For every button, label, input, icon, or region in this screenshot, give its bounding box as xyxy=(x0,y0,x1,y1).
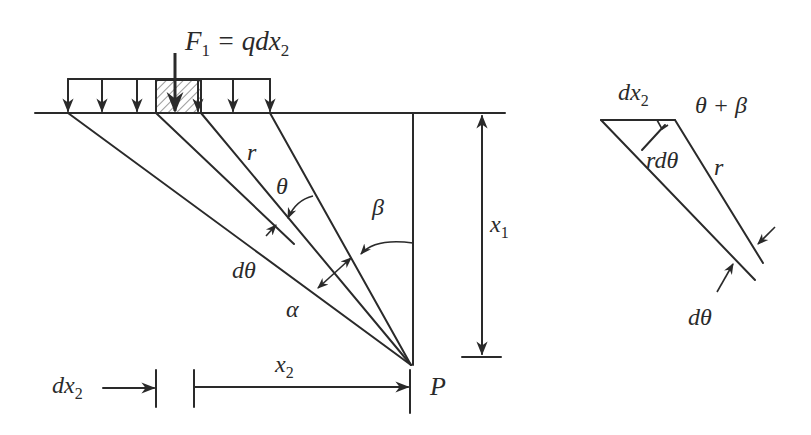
rays-to-point-p xyxy=(68,113,413,365)
detail-dtheta-arrow-upper xyxy=(758,227,775,244)
detail-triangle xyxy=(601,120,775,292)
point-p-label: P xyxy=(429,372,446,401)
r-label: r xyxy=(247,139,257,165)
alpha-label: α xyxy=(286,296,299,322)
theta-arc xyxy=(288,196,313,218)
detail-dx2-label: dx2 xyxy=(618,79,649,109)
theta-plus-beta-label: θ + β xyxy=(695,92,747,118)
dtheta-label: dθ xyxy=(232,257,256,283)
detail-dtheta-arrow-lower xyxy=(717,264,733,292)
beta-arc xyxy=(361,242,413,254)
x1-label: x1 xyxy=(489,211,509,241)
detail-dtheta-label: dθ xyxy=(688,304,712,330)
dtheta-arrow xyxy=(266,225,276,236)
beta-label: β xyxy=(371,194,384,220)
x2-label: x2 xyxy=(274,351,294,381)
alpha-arrow xyxy=(318,258,351,288)
theta-label: θ xyxy=(276,173,288,199)
force-label: F1 = qdx2 xyxy=(184,26,289,60)
diagram-canvas: F1 = qdx2 r θ β dθ α x1 x2 dx2 P xyxy=(0,0,811,435)
rdtheta-label: rdθ xyxy=(646,147,678,173)
x2-dimension xyxy=(194,370,410,413)
hatched-load-element xyxy=(156,80,201,113)
dx2-label: dx2 xyxy=(52,372,83,402)
detail-r-label: r xyxy=(714,154,724,180)
dx2-indicator xyxy=(103,370,156,407)
